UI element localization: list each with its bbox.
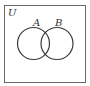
- set-a-circle: [18, 28, 50, 60]
- universe-label: U: [8, 7, 17, 18]
- set-a-label: A: [32, 17, 40, 28]
- set-b-label: B: [54, 17, 62, 28]
- venn-diagram: U A B: [0, 0, 90, 86]
- set-b-circle: [41, 28, 73, 60]
